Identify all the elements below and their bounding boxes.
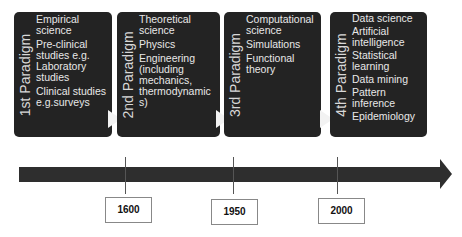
paradigm-item: Computational science [246, 14, 319, 36]
paradigm-item: Empirical science [36, 14, 110, 36]
paradigm-item: Artificial intelligence [352, 26, 425, 48]
paradigm-item: Epidemiology [352, 111, 425, 122]
timeline-tick [337, 157, 338, 194]
paradigm-item: Pattern inference [352, 87, 425, 109]
timeline-tick [233, 157, 234, 194]
paradigm-item: Statistical learning [352, 50, 425, 72]
timeline-bar [19, 167, 441, 182]
paradigm-box-1: 1st Paradigm Empirical science Pre-clini… [14, 12, 112, 137]
year-label-2000: 2000 [318, 198, 365, 224]
paradigm-item: Clinical studies e.g.surveys [36, 86, 110, 108]
year-label-1950: 1950 [211, 199, 258, 225]
paradigm-item: Engineering (including mechanics, thermo… [139, 53, 218, 108]
paradigm-item: Functional theory [246, 53, 319, 75]
paradigm-box-2: 2nd Paradigm Theoretical science Physics… [117, 12, 220, 137]
paradigm-label: 1st Paradigm [14, 12, 36, 137]
paradigm-label: 2nd Paradigm [117, 12, 139, 137]
paradigm-item: Pre-clinical studies e.g. Laboratory stu… [36, 39, 110, 83]
paradigm-item: Simulations [246, 39, 319, 50]
paradigm-item: Theoretical science [139, 14, 218, 36]
paradigm-item: Data mining [352, 74, 425, 85]
paradigm-box-4: 4th Paradigm Data science Artificial int… [330, 12, 427, 137]
year-label-1600: 1600 [105, 197, 152, 223]
paradigm-label: 3rd Paradigm [224, 12, 246, 137]
timeline-tick [125, 157, 126, 194]
paradigm-label: 4th Paradigm [330, 12, 352, 137]
paradigm-item: Physics [139, 39, 218, 50]
timeline-arrowhead-icon [440, 159, 452, 189]
paradigm-box-3: 3rd Paradigm Computational science Simul… [224, 12, 321, 137]
paradigm-item: Data science [352, 13, 425, 24]
